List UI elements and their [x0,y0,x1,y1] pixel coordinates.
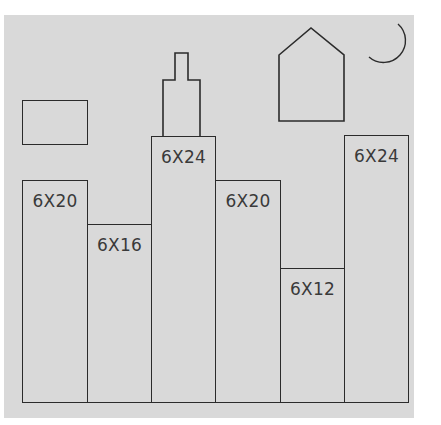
decorations-layer [0,0,441,425]
crescent-moon-icon [369,24,405,62]
tower-spire-icon [163,53,200,136]
house-outline-icon [279,28,344,121]
